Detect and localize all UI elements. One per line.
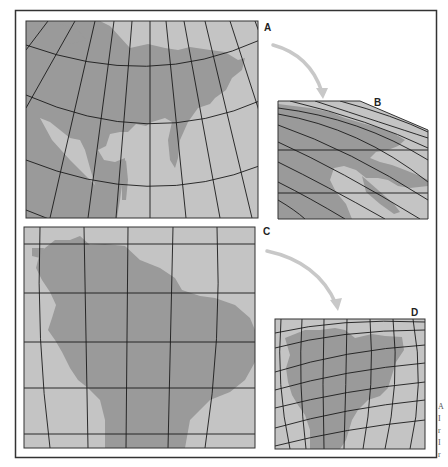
map-panel-b [278, 101, 428, 219]
panel-label-a: A [264, 22, 271, 33]
clipped-caption-fragment: A [438, 402, 448, 412]
arrow-a-to-b [273, 45, 328, 99]
map-panel-d [275, 319, 425, 449]
clipped-caption-fragment: I [438, 414, 448, 424]
map-panel-a [26, 21, 262, 241]
map-panel-c [24, 227, 255, 448]
arrow-c-to-d [267, 251, 342, 311]
panel-label-b: B [374, 97, 381, 108]
panel-label-d: D [411, 307, 418, 318]
panel-label-c: C [263, 226, 270, 237]
clipped-caption-fragment: r [438, 426, 448, 436]
clipped-caption-fragment: I [438, 438, 448, 448]
clipped-caption-fragment: r [438, 450, 448, 460]
